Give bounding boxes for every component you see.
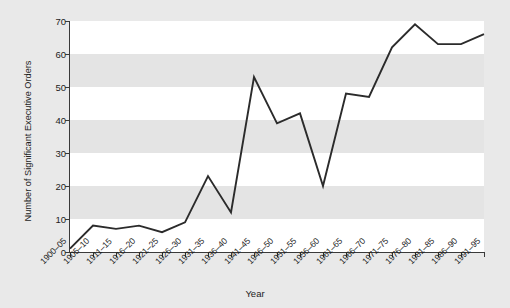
y-tick-mark (65, 186, 69, 187)
y-tick-mark (65, 153, 69, 154)
plot-area (70, 21, 484, 252)
y-tick-mark (65, 87, 69, 88)
y-tick-mark (65, 54, 69, 55)
y-tick-label: 40 (42, 115, 66, 126)
y-axis-title: Number of Significant Executive Orders (23, 41, 33, 241)
y-tick-label: 70 (42, 16, 66, 27)
y-tick-mark (65, 219, 69, 220)
y-tick-label: 30 (42, 148, 66, 159)
y-axis-line (69, 21, 70, 253)
x-tick-mark (484, 253, 485, 257)
x-axis-title: Year (0, 288, 510, 299)
y-tick-label: 10 (42, 214, 66, 225)
y-tick-mark (65, 120, 69, 121)
y-tick-mark (65, 21, 69, 22)
y-tick-label: 20 (42, 181, 66, 192)
chart-figure: 010203040506070 1900–051905–101911–15191… (0, 0, 510, 308)
y-tick-label: 50 (42, 82, 66, 93)
series-polyline (70, 24, 484, 248)
y-tick-label: 60 (42, 49, 66, 60)
line-series (70, 21, 484, 252)
